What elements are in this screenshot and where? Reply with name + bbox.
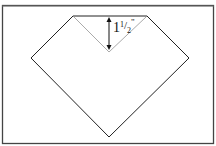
frame-top-shadow	[2, 5, 214, 7]
diagram-frame	[3, 6, 214, 144]
diagram-canvas: 11/2"	[0, 0, 216, 146]
